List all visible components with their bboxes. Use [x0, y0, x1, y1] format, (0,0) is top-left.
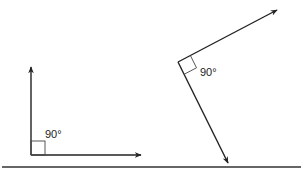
- perpendicular-rays-diagram: 90° 90°: [0, 0, 307, 174]
- left-right-angle: 90°: [31, 67, 141, 155]
- right-angle-marker: [31, 141, 45, 155]
- angle-label-left: 90°: [45, 128, 62, 140]
- upper-ray: [178, 10, 277, 62]
- angle-label-right: 90°: [200, 66, 217, 78]
- rotated-right-angle: 90°: [178, 10, 277, 163]
